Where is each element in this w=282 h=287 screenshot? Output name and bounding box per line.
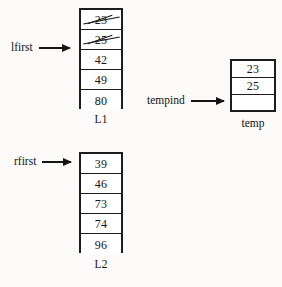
cell-value: 39	[95, 158, 107, 170]
list-cell: 23	[232, 61, 274, 78]
cell-value: 23	[247, 63, 259, 75]
list-cell: 23	[81, 10, 121, 30]
pointer-rfirst: rfirst	[14, 155, 71, 169]
arrow-icon	[42, 161, 71, 163]
pointer-tempind: tempind	[147, 94, 224, 108]
list-box-l1: 23 25 42 49 80	[79, 8, 123, 109]
list-cell: 74	[81, 214, 121, 234]
cell-value: 49	[95, 74, 107, 86]
list-cell: 80	[81, 90, 121, 111]
arrow-icon	[39, 47, 70, 49]
cell-value: 74	[95, 218, 107, 230]
cell-value: 42	[95, 54, 107, 66]
pointer-label: lfirst	[11, 42, 33, 54]
pointer-lfirst: lfirst	[11, 41, 70, 55]
cell-value: 46	[95, 178, 107, 190]
list-cell: 73	[81, 194, 121, 214]
cell-value: 96	[95, 239, 107, 251]
cell-value: 80	[95, 95, 107, 107]
list-cell: 46	[81, 174, 121, 194]
pointer-label: tempind	[147, 95, 185, 107]
cell-value: 25	[95, 34, 107, 46]
diagram-canvas: 23 25 42 49 80 L1 lfirst 39 46	[0, 0, 282, 287]
list-box-temp: 23 25	[230, 59, 276, 112]
list-cell: 25	[232, 78, 274, 95]
arrow-icon	[191, 100, 224, 102]
pointer-label: rfirst	[14, 156, 36, 168]
list-cell: 39	[81, 154, 121, 174]
caption-l1: L1	[79, 114, 123, 126]
list-box-l2: 39 46 73 74 96	[79, 152, 123, 253]
cell-value: 23	[95, 14, 107, 26]
list-cell: 49	[81, 70, 121, 90]
caption-l2: L2	[79, 259, 123, 271]
list-cell: 42	[81, 50, 121, 70]
list-cell-empty	[232, 95, 274, 110]
list-cell: 25	[81, 30, 121, 50]
caption-temp: temp	[230, 118, 276, 130]
cell-value: 73	[95, 198, 107, 210]
cell-value: 25	[247, 80, 259, 92]
list-cell: 96	[81, 234, 121, 255]
